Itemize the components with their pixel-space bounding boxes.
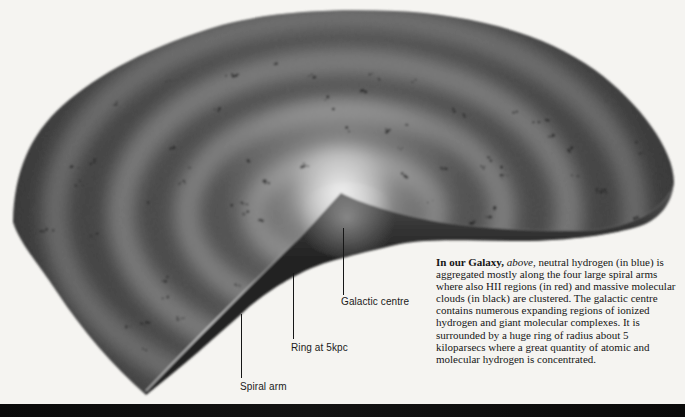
figure-caption: In our Galaxy, above, neutral hydrogen (… bbox=[436, 256, 676, 365]
caption-body: , neutral hydrogen (in blue) is aggregat… bbox=[436, 256, 675, 365]
bottom-photo-strip bbox=[0, 404, 685, 417]
label-galactic-centre: Galactic centre bbox=[341, 296, 409, 307]
label-ring-at-5kpc: Ring at 5kpc bbox=[291, 342, 348, 353]
caption-lead-bold: In our Galaxy, bbox=[436, 256, 504, 268]
book-figure-page: Galactic centre Ring at 5kpc Spiral arm … bbox=[0, 0, 685, 417]
label-spiral-arm: Spiral arm bbox=[240, 381, 287, 392]
caption-lead-italic: above bbox=[504, 256, 533, 268]
